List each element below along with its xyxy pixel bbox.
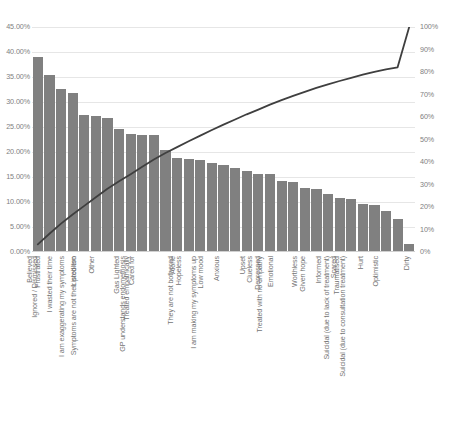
bar[interactable] xyxy=(300,188,310,252)
plot-area xyxy=(32,27,415,252)
y-axis-left-tick: 25.00% xyxy=(0,123,30,131)
bar[interactable] xyxy=(114,129,124,252)
bar[interactable] xyxy=(33,57,43,252)
bar[interactable] xyxy=(56,89,66,252)
bar-slot xyxy=(299,27,311,252)
bar[interactable] xyxy=(230,168,240,252)
pareto-chart: 0.00%5.00%10.00%15.00%20.00%25.00%30.00%… xyxy=(0,0,467,426)
bar-slot xyxy=(380,27,392,252)
category-label: Symptoms are not their problem xyxy=(69,256,78,355)
bar-slot xyxy=(125,27,137,252)
y-axis-left-tick: 45.00% xyxy=(0,23,30,31)
bar[interactable] xyxy=(218,165,228,252)
bar[interactable] xyxy=(91,116,101,252)
category-label: Hopeless xyxy=(174,256,183,285)
bar[interactable] xyxy=(346,199,356,252)
y-axis-right-tick: 10% xyxy=(420,226,454,234)
bar-slot xyxy=(311,27,323,252)
bar-slot xyxy=(206,27,218,252)
y-axis-right-tick: 100% xyxy=(420,23,454,31)
bar-slot xyxy=(357,27,369,252)
bar[interactable] xyxy=(160,150,170,252)
y-axis-left-tick: 35.00% xyxy=(0,73,30,81)
y-axis-right-tick: 20% xyxy=(420,203,454,211)
bar[interactable] xyxy=(44,75,54,252)
bar-slot xyxy=(264,27,276,252)
bar[interactable] xyxy=(335,198,345,252)
category-slot: I am making my symptoms up xyxy=(229,254,241,424)
bar-slot xyxy=(67,27,79,252)
bar-slot xyxy=(55,27,67,252)
bar[interactable] xyxy=(195,160,205,252)
bar-slot xyxy=(345,27,357,252)
bar-slot xyxy=(90,27,102,252)
bar[interactable] xyxy=(393,219,403,252)
category-slot: Hurt xyxy=(357,254,369,424)
category-label: GP understands endometriosis xyxy=(118,256,127,352)
bar[interactable] xyxy=(149,135,159,252)
bar[interactable] xyxy=(79,115,89,252)
category-label: I wasted their time xyxy=(44,256,53,312)
bar[interactable] xyxy=(68,93,78,252)
y-axis-right-tick: 0% xyxy=(420,248,454,256)
category-label: Optimistic xyxy=(371,256,380,287)
category-slot: Dirty xyxy=(404,254,416,424)
category-slot: Anxious xyxy=(218,254,230,424)
bar[interactable] xyxy=(137,135,147,252)
bar-slot xyxy=(276,27,288,252)
category-slot: Treated empathically xyxy=(148,254,160,424)
category-label: Dirty xyxy=(402,256,411,270)
y-axis-right-tick: 90% xyxy=(420,46,454,54)
category-label: Ignored / Dismissed xyxy=(30,256,39,318)
category-slot: Traumatised xyxy=(345,254,357,424)
category-label: Other xyxy=(87,256,96,273)
y-axis-right-tick: 50% xyxy=(420,136,454,144)
bar-series xyxy=(32,27,415,252)
bar-slot xyxy=(171,27,183,252)
category-label: Anxious xyxy=(211,256,220,281)
bar-slot xyxy=(78,27,90,252)
bar[interactable] xyxy=(172,158,182,252)
bar[interactable] xyxy=(277,181,287,252)
category-axis: BelievedFrustratedIgnored / DismissedI w… xyxy=(32,254,415,424)
bar[interactable] xyxy=(126,134,136,252)
bar-slot xyxy=(44,27,56,252)
y-axis-left-tick: 30.00% xyxy=(0,98,30,106)
bar[interactable] xyxy=(288,182,298,252)
category-label: They are not bothered xyxy=(166,256,175,325)
bar-slot xyxy=(183,27,195,252)
bar-slot xyxy=(160,27,172,252)
bar[interactable] xyxy=(265,174,275,252)
axis-baseline xyxy=(32,251,415,252)
bar[interactable] xyxy=(311,189,321,252)
bar-slot xyxy=(334,27,346,252)
category-label: Emotional xyxy=(266,256,275,287)
bar[interactable] xyxy=(242,171,252,252)
category-slot: Optimistic xyxy=(380,254,392,424)
category-label: Worthless xyxy=(289,256,298,287)
bar-slot xyxy=(392,27,404,252)
bar[interactable] xyxy=(358,204,368,252)
bar[interactable] xyxy=(184,159,194,252)
bar-slot xyxy=(369,27,381,252)
bar-slot xyxy=(287,27,299,252)
bar[interactable] xyxy=(381,211,391,252)
bar[interactable] xyxy=(207,163,217,252)
category-label: Given hope xyxy=(299,256,308,292)
bar[interactable] xyxy=(253,174,263,252)
bar-slot xyxy=(136,27,148,252)
y-axis-left-tick: 40.00% xyxy=(0,48,30,56)
bar[interactable] xyxy=(323,194,333,252)
bar-slot xyxy=(322,27,334,252)
bar-slot xyxy=(241,27,253,252)
category-slot: Cared for xyxy=(136,254,148,424)
bar-slot xyxy=(253,27,265,252)
bar[interactable] xyxy=(369,205,379,252)
y-axis-right-tick: 60% xyxy=(420,113,454,121)
bar-slot xyxy=(148,27,160,252)
category-label: Suicidal (due to consultation treatment) xyxy=(337,256,346,377)
bar-slot xyxy=(195,27,207,252)
bar-slot xyxy=(32,27,44,252)
y-axis-left-tick: 20.00% xyxy=(0,148,30,156)
bar[interactable] xyxy=(102,118,112,252)
